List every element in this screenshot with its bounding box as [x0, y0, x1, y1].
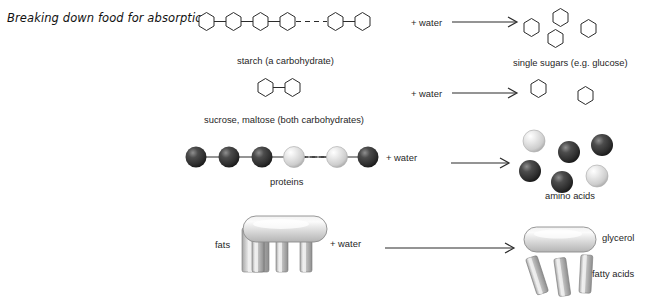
- single-sugars-group: [524, 9, 596, 48]
- fat-products-group: [524, 227, 596, 297]
- fat-arrow: [385, 243, 514, 253]
- disaccharide-plus-water-label: + water: [411, 88, 442, 99]
- disaccharide-reactant-label: sucrose, maltose (both carbohydrates): [204, 114, 364, 125]
- amino-acids-group: [519, 130, 613, 193]
- single-sugars-label: single sugars (e.g. glucose): [513, 57, 628, 68]
- proteins-reactant-label: proteins: [270, 176, 303, 187]
- fats-plus-water-label: + water: [330, 238, 361, 249]
- starch-plus-water-label: + water: [411, 17, 442, 28]
- fat-reactant-group: [242, 216, 327, 272]
- disaccharide-arrow: [452, 88, 517, 98]
- protein-arrow: [451, 158, 509, 168]
- protein-reactant-group: [186, 147, 379, 168]
- starch-arrow: [452, 17, 517, 27]
- amino-acids-label: amino acids: [545, 190, 595, 201]
- glycerol-label: glycerol: [602, 232, 634, 243]
- fats-reactant-label: fats: [215, 239, 230, 250]
- starch-reactant-group: [199, 13, 370, 31]
- diagram-canvas: Breaking down food for absorption.: [0, 0, 646, 299]
- fatty-acids-label: fatty acids: [592, 268, 634, 279]
- disaccharide-products-group: [531, 80, 593, 105]
- disaccharide-reactant-group: [258, 79, 300, 97]
- starch-reactant-label: starch (a carbohydrate): [237, 55, 334, 66]
- diagram-graphics: [0, 0, 646, 299]
- proteins-plus-water-label: + water: [386, 152, 417, 163]
